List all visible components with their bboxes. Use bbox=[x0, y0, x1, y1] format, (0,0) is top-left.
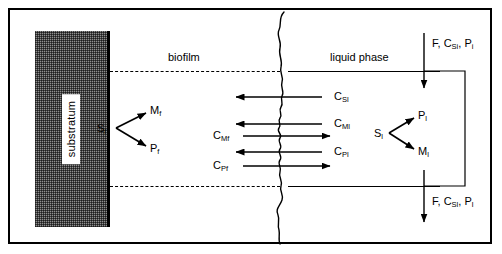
outlet-product-symbol: P bbox=[464, 195, 471, 207]
outlet-flow-label: F, CSl, Pl bbox=[432, 196, 473, 207]
concentration-ml-symbol: C bbox=[334, 117, 342, 129]
concentration-ml-subscript: Ml bbox=[342, 122, 350, 131]
concentration-mf-symbol: C bbox=[213, 129, 221, 141]
concentration-sl-label: CSl bbox=[334, 91, 349, 102]
bottom-boundary-dashed bbox=[110, 186, 280, 187]
liquid-phase-region-label: liquid phase bbox=[330, 51, 389, 63]
liquid-reactant-subscript: l bbox=[381, 132, 383, 141]
liquid-product-m-symbol: M bbox=[418, 145, 427, 157]
concentration-ml-label: CMl bbox=[334, 118, 350, 129]
inlet-conc-subscript: Si bbox=[452, 42, 459, 51]
outlet-conc-symbol: C bbox=[444, 195, 452, 207]
concentration-mf-label: CMf bbox=[213, 130, 229, 141]
concentration-sl-symbol: C bbox=[334, 90, 342, 102]
biofilm-product-m-subscript: f bbox=[159, 109, 161, 118]
liquid-product-m-label: Ml bbox=[418, 146, 429, 157]
liquid-product-p-subscript: l bbox=[425, 114, 427, 123]
inlet-product-symbol: P bbox=[464, 37, 471, 49]
biofilm-reactant-label: Sf bbox=[97, 123, 106, 134]
inlet-flow-label: F, CSi, Pi bbox=[432, 38, 473, 49]
top-boundary-solid bbox=[288, 71, 440, 72]
concentration-pf-symbol: C bbox=[213, 159, 221, 171]
inlet-conc-symbol: C bbox=[444, 37, 452, 49]
liquid-product-p-label: Pl bbox=[418, 110, 427, 121]
biofilm-product-m-label: Mf bbox=[150, 105, 161, 116]
outlet-flow-symbol: F bbox=[432, 195, 438, 207]
inlet-flow-symbol: F bbox=[432, 37, 438, 49]
substratum-label: substratum bbox=[62, 94, 80, 164]
concentration-sl-subscript: Sl bbox=[342, 95, 349, 104]
concentration-pf-label: CPf bbox=[213, 160, 228, 171]
concentration-pl-subscript: Pl bbox=[342, 150, 349, 159]
biofilm-product-m-symbol: M bbox=[150, 104, 159, 116]
outlet-conc-subscript: Sl bbox=[452, 200, 459, 209]
biofilm-region-label: biofilm bbox=[168, 51, 200, 63]
bottom-boundary-solid bbox=[288, 186, 440, 187]
concentration-pl-symbol: C bbox=[334, 145, 342, 157]
liquid-product-m-subscript: l bbox=[427, 150, 429, 159]
concentration-pf-subscript: Pf bbox=[221, 164, 228, 173]
liquid-reactant-label: Sl bbox=[374, 128, 383, 139]
concentration-mf-subscript: Mf bbox=[221, 134, 229, 143]
biofilm-product-p-label: Pf bbox=[150, 143, 159, 154]
concentration-pl-label: CPl bbox=[334, 146, 349, 157]
top-boundary-dashed bbox=[110, 71, 280, 72]
figure-canvas: substratum biofilm liquid phase bbox=[0, 0, 502, 254]
